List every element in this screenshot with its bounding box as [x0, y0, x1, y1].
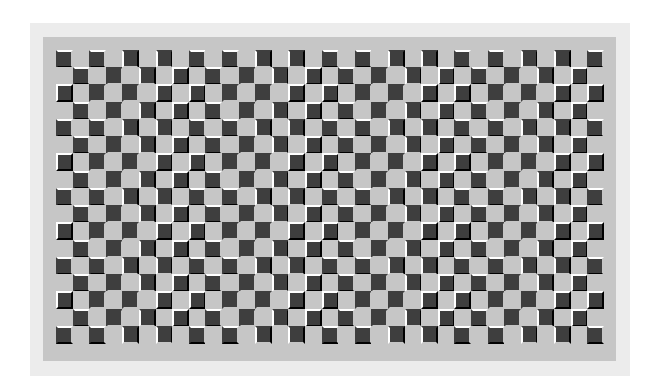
dark-square: [305, 309, 322, 327]
dark-square: [222, 291, 239, 309]
dark-square: [73, 171, 90, 189]
light-square: [322, 67, 339, 85]
dark-square: [156, 50, 173, 68]
dark-square: [405, 136, 422, 154]
light-square: [172, 119, 189, 137]
dark-square: [471, 309, 488, 327]
dark-square: [56, 119, 73, 137]
dark-square: [371, 102, 388, 120]
dark-square: [371, 136, 388, 154]
light-square: [89, 171, 106, 189]
dark-square: [471, 102, 488, 120]
light-square: [521, 67, 538, 85]
light-square: [355, 67, 372, 85]
light-square: [288, 102, 305, 120]
dark-square: [205, 102, 222, 120]
dark-square: [521, 222, 538, 240]
light-square: [571, 119, 588, 137]
dark-square: [139, 136, 156, 154]
dark-square: [73, 67, 90, 85]
light-square: [587, 274, 604, 292]
light-square: [56, 309, 73, 327]
dark-square: [288, 222, 305, 240]
dark-square: [521, 326, 538, 344]
light-square: [172, 188, 189, 206]
light-square: [205, 188, 222, 206]
dark-square: [554, 50, 571, 68]
light-square: [189, 274, 206, 292]
light-square: [405, 291, 422, 309]
dark-square: [388, 84, 405, 102]
light-square: [421, 67, 438, 85]
light-square: [454, 102, 471, 120]
dark-square: [56, 153, 73, 171]
dark-square: [255, 50, 272, 68]
dark-square: [587, 50, 604, 68]
dark-square: [454, 84, 471, 102]
light-square: [488, 205, 505, 223]
dark-square: [272, 171, 289, 189]
light-square: [405, 84, 422, 102]
light-square: [338, 119, 355, 137]
light-square: [405, 153, 422, 171]
light-square: [222, 136, 239, 154]
dark-square: [388, 326, 405, 344]
dark-square: [89, 257, 106, 275]
light-square: [371, 153, 388, 171]
dark-square: [239, 205, 256, 223]
dark-square: [438, 309, 455, 327]
light-square: [288, 171, 305, 189]
dark-square: [504, 309, 521, 327]
light-square: [471, 50, 488, 68]
dark-square: [405, 205, 422, 223]
dark-square: [454, 291, 471, 309]
light-square: [554, 205, 571, 223]
light-square: [587, 171, 604, 189]
light-square: [587, 67, 604, 85]
dark-square: [471, 67, 488, 85]
light-square: [338, 153, 355, 171]
dark-square: [122, 291, 139, 309]
light-square: [454, 67, 471, 85]
light-square: [239, 153, 256, 171]
light-square: [554, 67, 571, 85]
dark-square: [255, 119, 272, 137]
dark-square: [421, 153, 438, 171]
light-square: [189, 309, 206, 327]
dark-square: [305, 205, 322, 223]
dark-square: [106, 309, 123, 327]
dark-square: [421, 188, 438, 206]
dark-square: [421, 84, 438, 102]
dark-square: [521, 84, 538, 102]
dark-square: [355, 153, 372, 171]
dark-square: [288, 257, 305, 275]
dark-square: [106, 240, 123, 258]
light-square: [139, 188, 156, 206]
light-square: [122, 240, 139, 258]
dark-square: [554, 119, 571, 137]
dark-square: [371, 274, 388, 292]
dark-square: [537, 309, 554, 327]
light-square: [388, 102, 405, 120]
dark-square: [139, 240, 156, 258]
dark-square: [89, 222, 106, 240]
dark-square: [454, 188, 471, 206]
dark-square: [73, 274, 90, 292]
dark-square: [56, 291, 73, 309]
dark-square: [322, 222, 339, 240]
light-square: [571, 326, 588, 344]
light-square: [272, 222, 289, 240]
light-square: [56, 274, 73, 292]
dark-square: [355, 222, 372, 240]
light-square: [222, 102, 239, 120]
light-square: [122, 205, 139, 223]
light-square: [288, 240, 305, 258]
dark-square: [488, 291, 505, 309]
light-square: [139, 257, 156, 275]
light-square: [421, 240, 438, 258]
light-square: [272, 326, 289, 344]
light-square: [73, 326, 90, 344]
light-square: [139, 84, 156, 102]
light-square: [405, 326, 422, 344]
dark-square: [587, 257, 604, 275]
